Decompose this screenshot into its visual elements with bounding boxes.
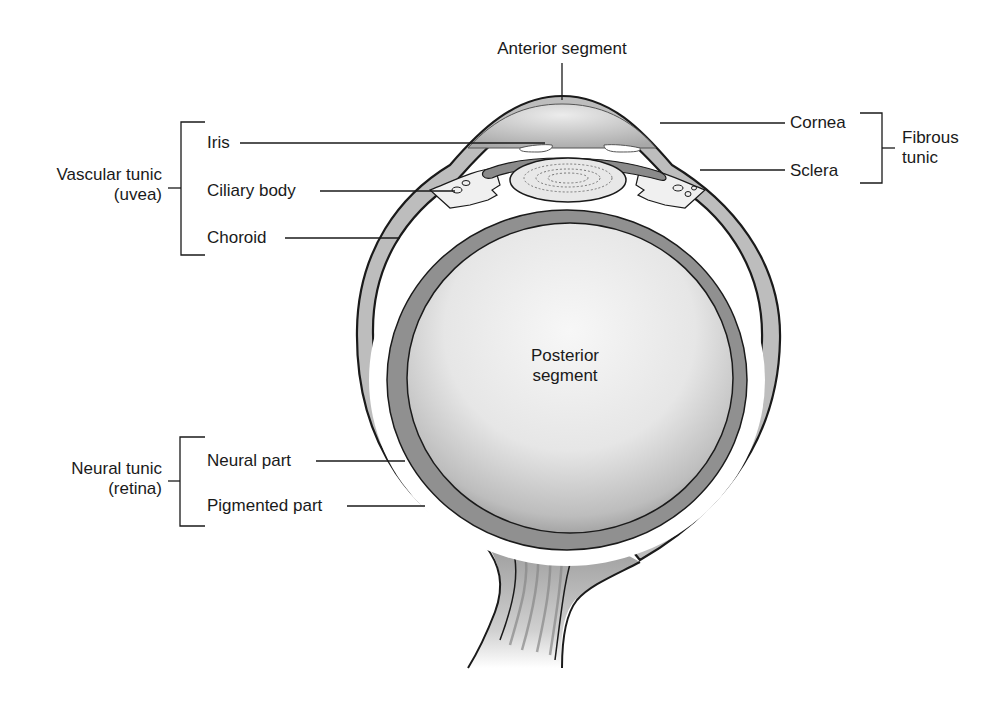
cornea-label: Cornea bbox=[790, 113, 846, 133]
fibrous-tunic-line1: Fibrous bbox=[902, 128, 959, 148]
posterior-segment-label: Posterior segment bbox=[510, 346, 620, 386]
fibrous-tunic-line2: tunic bbox=[902, 148, 959, 168]
neural-tunic-label: Neural tunic (retina) bbox=[10, 459, 162, 499]
eye-diagram bbox=[0, 0, 1006, 703]
posterior-segment-line2: segment bbox=[510, 366, 620, 386]
neural-tunic-line1: Neural tunic bbox=[10, 459, 162, 479]
anterior-segment bbox=[468, 104, 656, 148]
vascular-tunic-line2: (uvea) bbox=[10, 185, 162, 205]
vascular-tunic-bracket bbox=[181, 122, 205, 255]
vascular-tunic-line1: Vascular tunic bbox=[10, 165, 162, 185]
sclera-label: Sclera bbox=[790, 161, 838, 181]
iris-label: Iris bbox=[207, 133, 230, 153]
neural-part-label: Neural part bbox=[207, 451, 291, 471]
ciliary-body-label: Ciliary body bbox=[207, 181, 296, 201]
neural-tunic-line2: (retina) bbox=[10, 479, 162, 499]
lens bbox=[510, 158, 626, 202]
neural-tunic-bracket bbox=[180, 437, 205, 526]
vascular-tunic-label: Vascular tunic (uvea) bbox=[10, 165, 162, 205]
fibrous-tunic-label: Fibrous tunic bbox=[902, 128, 959, 168]
fibrous-tunic-bracket bbox=[860, 113, 882, 183]
anterior-segment-label: Anterior segment bbox=[492, 39, 632, 59]
choroid-label: Choroid bbox=[207, 228, 267, 248]
posterior-segment-line1: Posterior bbox=[510, 346, 620, 366]
pigmented-part-label: Pigmented part bbox=[207, 496, 322, 516]
